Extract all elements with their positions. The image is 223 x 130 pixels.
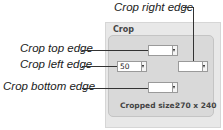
crop-bottom-input[interactable] [148,82,173,93]
crop-bottom-stepper[interactable] [173,82,178,93]
crop-right-field[interactable] [178,61,208,72]
crop-bottom-field[interactable] [148,82,178,93]
panel-title: Crop [113,25,134,34]
leader-line-top [82,50,148,51]
crop-left-field[interactable]: 50 [117,61,147,72]
crop-right-stepper[interactable] [203,61,208,72]
crop-top-input[interactable] [148,45,173,56]
crop-top-stepper[interactable] [173,45,178,56]
crop-left-stepper[interactable] [142,61,147,72]
callout-top-edge: Crop top edge [20,42,93,54]
cropped-size-label: Cropped size: [120,101,178,110]
callout-left-edge: Crop left edge [20,58,92,70]
leader-line-bottom [82,88,148,89]
crop-left-input[interactable]: 50 [117,61,142,72]
crop-top-field[interactable] [148,45,178,56]
leader-line-right-vertical [193,7,194,65]
callout-right-edge: Crop right edge [114,1,193,13]
cropped-size-value: 270 x 240 [175,101,216,110]
crop-right-input[interactable] [178,61,203,72]
leader-line-left [82,66,118,67]
callout-bottom-edge: Crop bottom edge [3,80,95,92]
